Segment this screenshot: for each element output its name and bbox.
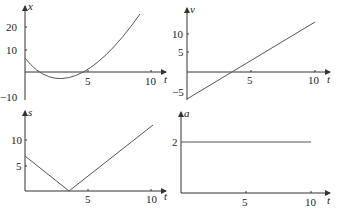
velocity-chart: v t 10 5 −5 5 10	[172, 3, 331, 100]
position-chart: x t 20 10 −10 5 10	[0, 0, 168, 103]
y-axis-label: a	[184, 107, 190, 119]
y-tick-10: 10	[172, 28, 184, 40]
t-axis-label: t	[164, 73, 168, 85]
y-tick-neg5: −5	[172, 86, 184, 98]
t-tick-10: 10	[308, 74, 320, 86]
t-axis-label: t	[327, 73, 331, 85]
t-tick-10: 10	[305, 196, 317, 208]
velocity-line	[187, 22, 315, 99]
y-tick-5: 5	[178, 46, 184, 58]
y-tick-neg10: −10	[0, 91, 18, 103]
y-tick-10: 10	[11, 134, 23, 146]
y-tick-5: 5	[16, 160, 22, 172]
kinematics-graphs: x t 20 10 −10 5 10 v t 10 5 −5 5 10 s t …	[0, 0, 337, 212]
speed-line	[25, 125, 153, 191]
t-axis-label: t	[164, 190, 168, 202]
t-tick-5: 5	[242, 196, 248, 208]
y-axis-label: s	[28, 106, 32, 118]
acceleration-chart: a t 2 5 10	[172, 107, 331, 208]
t-tick-10: 10	[145, 75, 157, 87]
t-tick-5: 5	[85, 193, 91, 205]
t-axis-label: t	[327, 194, 331, 206]
y-tick-20: 20	[6, 21, 18, 33]
t-tick-5: 5	[85, 75, 91, 87]
y-axis-label: x	[27, 0, 33, 12]
y-axis-label: v	[190, 3, 195, 15]
t-tick-5: 5	[247, 74, 253, 86]
speed-chart: s t 10 5 5 10	[11, 106, 168, 205]
y-tick-2: 2	[172, 136, 178, 148]
t-tick-10: 10	[146, 193, 158, 205]
y-tick-10: 10	[6, 44, 18, 56]
position-curve	[25, 14, 140, 79]
